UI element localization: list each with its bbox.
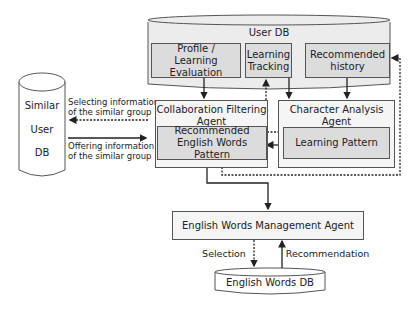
offering-info-line2: of the similar group bbox=[68, 151, 148, 162]
learning-tracking-line2: Tracking bbox=[248, 61, 290, 73]
user-db-title: User DB bbox=[148, 27, 390, 38]
rec-pattern-line1: Recommended bbox=[174, 125, 249, 137]
learning-tracking-box[interactable]: Learning Tracking bbox=[245, 43, 292, 78]
similar-db-line1: Similar bbox=[19, 100, 65, 111]
similar-db-line3: DB bbox=[19, 147, 65, 158]
recommended-history-line1: Recommended bbox=[310, 49, 385, 61]
recommendation-label: Recommendation bbox=[285, 248, 370, 259]
english-words-db-label: English Words DB bbox=[215, 277, 325, 288]
learning-pattern-label: Learning Pattern bbox=[295, 137, 378, 149]
char-title-line1: Character Analysis bbox=[290, 104, 384, 116]
english-words-management-agent[interactable]: English Words Management Agent bbox=[172, 211, 364, 240]
rec-pattern-line2: English Words Pattern bbox=[158, 137, 266, 161]
profile-label-line1: Profile / bbox=[177, 43, 215, 55]
similar-db-line2: User bbox=[19, 124, 65, 135]
profile-learning-evaluation-box[interactable]: Profile / Learning Evaluation bbox=[151, 43, 241, 78]
collab-title-line1: Collaboration Filtering bbox=[156, 104, 266, 116]
recommended-history-box[interactable]: Recommended history bbox=[305, 43, 390, 78]
selecting-info-line2: of the similar group bbox=[68, 107, 148, 118]
selection-label: Selection bbox=[198, 248, 250, 259]
mgmt-agent-label: English Words Management Agent bbox=[182, 220, 354, 232]
recommended-english-words-pattern-box[interactable]: Recommended English Words Pattern bbox=[157, 126, 267, 160]
learning-pattern-box[interactable]: Learning Pattern bbox=[283, 127, 390, 159]
learning-tracking-line1: Learning bbox=[247, 49, 290, 61]
profile-label-line2: Learning Evaluation bbox=[152, 55, 240, 79]
recommended-history-line2: history bbox=[330, 61, 364, 73]
